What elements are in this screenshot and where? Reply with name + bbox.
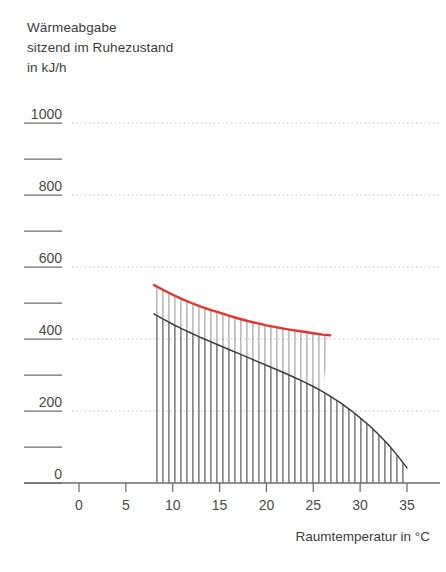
chart-title-line-2: sitzend im Ruhezustand [27,38,173,58]
y-tick-label: 0 [54,466,62,482]
chart-y-tick-marks [24,123,62,483]
chart-x-tick-labels: 05101520253035 [75,497,415,513]
chart-x-tick-marks [79,483,407,492]
chart-title-line-1: Wärmeabgabe [27,18,173,38]
y-tick-label: 600 [39,250,63,266]
chart-container: Wärmeabgabe sitzend im Ruhezustand in kJ… [0,0,446,572]
x-tick-label: 15 [212,497,228,513]
x-tick-label: 35 [399,497,415,513]
y-tick-label: 200 [39,394,63,410]
x-tick-label: 30 [352,497,368,513]
chart-title: Wärmeabgabe sitzend im Ruhezustand in kJ… [27,18,173,78]
chart-y-tick-labels: 02004006008001000 [31,106,62,482]
y-tick-label: 400 [39,322,63,338]
chart-title-line-3: in kJ/h [27,58,173,78]
x-tick-label: 5 [122,497,130,513]
y-tick-label: 800 [39,178,63,194]
x-tick-label: 20 [259,497,275,513]
chart-plot-area: 02004006008001000 05101520253035 Raumtem… [0,0,446,572]
x-tick-label: 10 [165,497,181,513]
x-tick-label: 25 [305,497,321,513]
x-tick-label: 0 [75,497,83,513]
x-axis-title: Raumtemperatur in °C [296,529,431,544]
y-tick-label: 1000 [31,106,62,122]
